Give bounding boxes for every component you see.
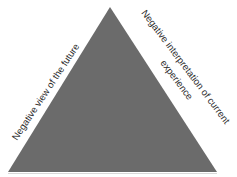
triad-diagram: Negative view of the future Negative int… (0, 0, 237, 177)
